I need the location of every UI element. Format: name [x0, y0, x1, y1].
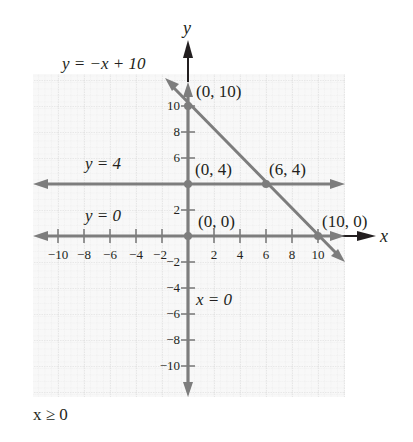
x-tick-label: 8 — [289, 247, 296, 262]
x-tick-label: −10 — [48, 247, 68, 262]
point-0-0 — [184, 232, 192, 240]
label-point-0-0: (0, 0) — [198, 212, 235, 231]
y-tick-label: −2 — [166, 254, 180, 269]
y-tick-label: −6 — [166, 306, 180, 321]
point-0-4 — [184, 180, 192, 188]
point-0-10 — [184, 102, 192, 110]
point-10-0 — [314, 232, 322, 240]
x-axis-arrow — [340, 231, 376, 241]
label-point-10-0: (10, 0) — [322, 212, 367, 231]
label-y-equals-0: y = 0 — [83, 206, 122, 225]
x-tick-label: 4 — [237, 247, 244, 262]
label-point-0-4: (0, 4) — [195, 160, 232, 179]
y-tick-label: 2 — [174, 202, 181, 217]
x-tick-label: 2 — [211, 247, 218, 262]
eq-text: y = −x + 10 — [60, 54, 146, 73]
y-tick-label: −10 — [160, 358, 180, 373]
constraint-caption: x ≥ 0 — [33, 405, 68, 424]
point-6-4 — [262, 180, 270, 188]
x-tick-label: 6 — [263, 247, 270, 262]
x-tick-label: 10 — [312, 247, 325, 262]
graph-figure: −10 −8 −6 −4 −2 2 4 6 8 10 10 8 6 2 −2 −… — [0, 0, 413, 442]
y-tick-label: 6 — [174, 150, 181, 165]
y-tick-label: −4 — [166, 280, 180, 295]
x-tick-label: −4 — [129, 247, 143, 262]
y-tick-label: 10 — [167, 98, 180, 113]
label-y-equals-4: y = 4 — [83, 154, 122, 173]
x-axis-label: x — [379, 226, 388, 246]
label-point-6-4: (6, 4) — [269, 160, 306, 179]
x-tick-label: −2 — [153, 247, 167, 262]
label-y-equals-neg-x-plus-10: y = −x + 10 — [60, 54, 146, 73]
y-tick-label: 8 — [174, 124, 181, 139]
label-x-equals-0: x = 0 — [195, 290, 233, 309]
y-axis-label: y — [181, 18, 191, 38]
y-tick-label: −8 — [166, 332, 180, 347]
x-tick-label: −8 — [77, 247, 91, 262]
label-point-0-10: (0, 10) — [196, 82, 241, 101]
x-tick-label: −6 — [103, 247, 117, 262]
